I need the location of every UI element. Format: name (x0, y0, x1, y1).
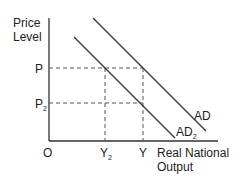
x-axis-label-2: Output (157, 160, 194, 174)
axes (49, 18, 218, 141)
price-label-p2: P2 (35, 97, 47, 112)
y-axis-label-1: Price (13, 16, 41, 30)
ad-shift-diagram: Price Level P P2 O Y2 Y Real National Ou… (0, 0, 249, 184)
guide-lines (49, 68, 143, 141)
ad2-label: AD2 (176, 125, 197, 140)
curves (74, 18, 206, 138)
ad2-curve (74, 37, 175, 138)
price-label-p: P (35, 62, 43, 76)
x-axis-label-1: Real National (157, 146, 229, 160)
output-label-y2: Y2 (100, 146, 112, 161)
ad-label: AD (194, 109, 211, 123)
output-label-y: Y (139, 146, 147, 160)
origin-label: O (43, 146, 52, 160)
ad-curve (93, 18, 206, 131)
y-axis-label-2: Level (13, 30, 42, 44)
